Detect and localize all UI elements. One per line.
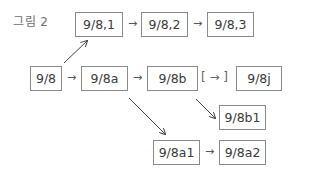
right-arrow-icon: → — [133, 72, 142, 83]
arrow-98a-to-98a1 — [129, 98, 165, 134]
optional-arrow-icon: [ → ] — [201, 71, 228, 83]
node-9-8-3: 9/8,3 — [207, 12, 254, 37]
right-arrow-icon: → — [67, 72, 76, 83]
node-9-8a: 9/8a — [81, 66, 128, 91]
right-arrow-icon: → — [205, 146, 214, 157]
node-9-8-1: 9/8,1 — [75, 12, 123, 37]
node-9-8b1: 9/8b1 — [219, 105, 266, 130]
node-9-8: 9/8 — [30, 66, 62, 91]
arrow-98b-to-98b1 — [196, 99, 215, 118]
node-9-8a2: 9/8a2 — [219, 140, 266, 165]
node-9-8-2: 9/8,2 — [141, 12, 188, 37]
right-arrow-icon: → — [193, 18, 202, 29]
node-9-8a1: 9/8a1 — [153, 140, 200, 165]
arrow-98-to-98-1 — [64, 41, 87, 63]
right-arrow-icon: → — [128, 18, 137, 29]
node-9-8j: 9/8j — [236, 66, 282, 91]
node-9-8b: 9/8b — [147, 66, 198, 91]
